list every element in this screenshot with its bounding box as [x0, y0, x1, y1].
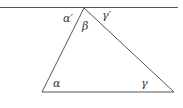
label-beta: β [81, 20, 88, 33]
label-alpha-prime: α′ [63, 12, 73, 25]
triangle-diagram: α′ β γ′ α γ [0, 0, 183, 108]
label-gamma: γ [141, 77, 148, 90]
label-gamma-prime: γ′ [102, 9, 112, 22]
label-alpha: α [53, 77, 61, 90]
